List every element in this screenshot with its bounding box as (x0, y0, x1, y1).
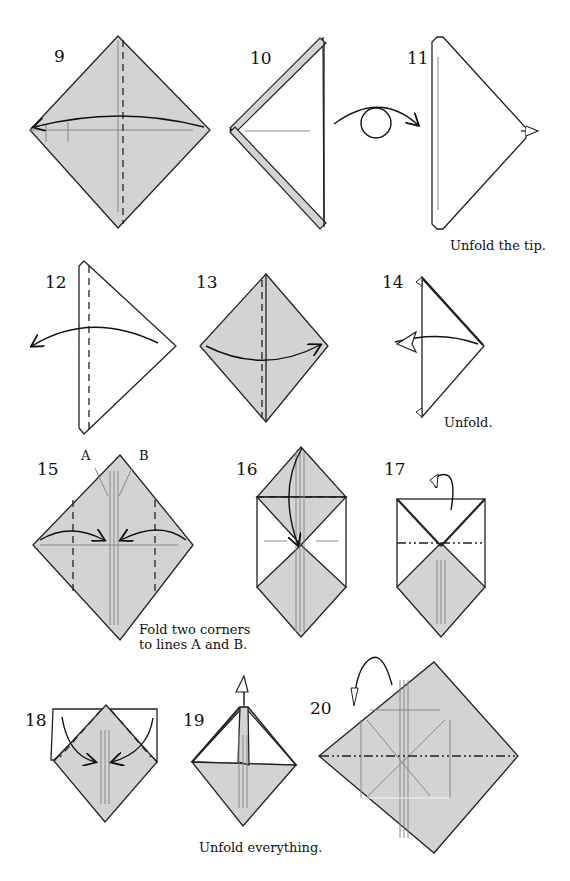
step-number-15: 15 (37, 461, 59, 478)
line-label-a: A (81, 448, 90, 464)
step-11-caption: Unfold the tip. (450, 238, 546, 254)
line-label-b: B (139, 448, 149, 464)
step-16-figure (257, 447, 346, 637)
step-number-9: 9 (54, 48, 65, 65)
step-number-20: 20 (310, 700, 332, 717)
turn-over-icon (334, 107, 418, 138)
step-15-caption-line-1: Fold two corners (139, 622, 250, 638)
step-15-caption-line-2: to lines A and B. (139, 637, 247, 653)
step-18-figure (51, 705, 157, 822)
step-19-caption: Unfold everything. (199, 840, 322, 856)
step-11-figure (432, 37, 538, 229)
step-number-19: 19 (183, 712, 205, 729)
step-15-figure (33, 455, 193, 640)
step-number-12: 12 (45, 274, 67, 291)
step-19-figure (192, 676, 296, 826)
origami-diagram (0, 0, 570, 881)
step-20-figure (319, 657, 518, 853)
step-13-figure (200, 274, 328, 422)
step-14-figure (395, 277, 484, 417)
step-number-14: 14 (382, 274, 404, 291)
step-number-18: 18 (25, 712, 47, 729)
step-number-10: 10 (250, 50, 272, 67)
step-number-13: 13 (196, 274, 218, 291)
step-number-16: 16 (236, 461, 258, 478)
step-number-17: 17 (384, 461, 406, 478)
step-10-figure (230, 38, 326, 229)
step-14-caption: Unfold. (444, 415, 493, 431)
step-number-11: 11 (407, 50, 429, 67)
step-17-figure (397, 474, 485, 637)
